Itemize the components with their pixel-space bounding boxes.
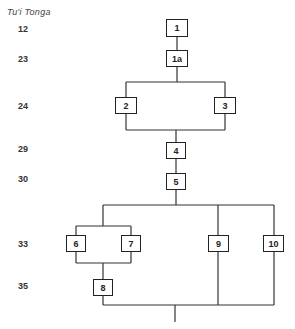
node-10: 10 — [263, 235, 284, 252]
node-6: 6 — [66, 235, 86, 252]
node-2: 2 — [115, 97, 137, 114]
node-5: 5 — [166, 173, 186, 190]
node-4: 4 — [166, 142, 186, 159]
node-7: 7 — [121, 235, 141, 252]
node-8: 8 — [93, 279, 113, 296]
node-9: 9 — [208, 235, 229, 252]
node-1: 1 — [166, 19, 188, 37]
connector-lines — [0, 0, 295, 329]
node-1a: 1a — [166, 50, 188, 67]
node-3: 3 — [214, 97, 236, 114]
